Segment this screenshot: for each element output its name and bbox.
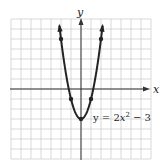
curve-arrow-icon bbox=[99, 24, 104, 32]
data-point bbox=[79, 117, 83, 121]
equation-label: y = 2x2 − 3 bbox=[92, 111, 151, 123]
y-axis-label: y bbox=[76, 6, 84, 19]
x-axis-label: x bbox=[153, 83, 160, 96]
x-axis-arrow-icon bbox=[143, 87, 150, 92]
data-point bbox=[99, 37, 103, 41]
parabola-graph: x y y = 2x2 − 3 bbox=[0, 0, 165, 162]
data-point bbox=[89, 97, 93, 101]
data-point bbox=[69, 97, 73, 101]
data-point bbox=[59, 37, 63, 41]
curve-arrow-icon bbox=[58, 24, 63, 32]
